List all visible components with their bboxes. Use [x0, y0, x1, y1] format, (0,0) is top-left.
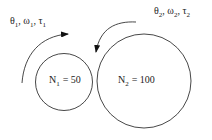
gear-1-teeth-label: N1= 50 — [49, 74, 81, 88]
rotation-arrow-1-icon — [22, 34, 68, 83]
rotation-arrow-2-icon — [96, 22, 136, 52]
gear-1-state-label: θ1, ω1, τ1 — [10, 15, 46, 29]
gear-2-teeth-label: N2= 100 — [118, 74, 155, 88]
gear-2-state-label: θ2, ω2, τ2 — [154, 5, 190, 19]
gear-diagram: θ1, ω1, τ1 θ2, ω2, τ2 N1= 50 N2= 100 — [0, 0, 212, 140]
